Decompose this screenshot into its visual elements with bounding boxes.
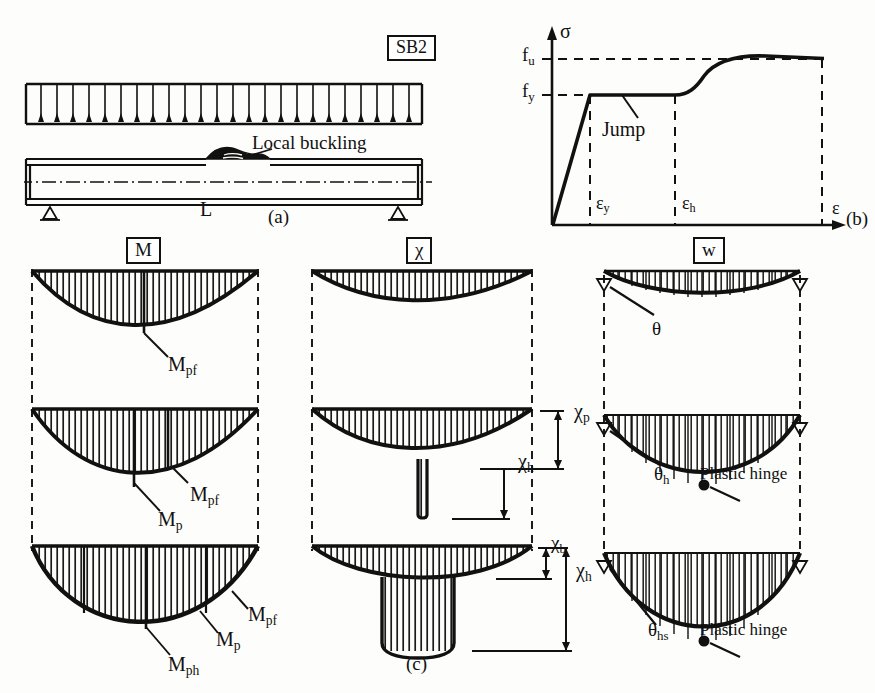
mpf2-main: M [190,483,208,505]
chib-sub: b [559,541,565,556]
chih3-main: χ [576,559,585,581]
mp3-main: M [216,628,234,650]
tick-epsy-sub: y [604,201,610,215]
chip-main: χ [574,400,583,422]
tick-label-fy: fy [522,80,535,105]
tick-label-fu: fu [522,44,535,69]
deflection-label-theta-h: θh [654,463,670,488]
column-header-curvature: χ [406,237,432,264]
mpf1-sub: pf [186,363,197,378]
mp2-main: M [158,508,176,530]
mpf2-sub: pf [208,493,219,508]
column-header-moment: M [126,237,161,264]
moment-label-mp-stage3: Mp [216,628,241,654]
plastic-hinge-label-stage3: Plastic hinge [700,620,787,640]
caption-a: (a) [268,206,289,228]
mph3-main: M [168,653,186,675]
curvature-label-chi-b: χb [551,532,566,557]
tick-fy-sub: y [528,89,534,104]
plastic-hinge-label-stage2: Plastic hinge [700,464,787,484]
mpf3-sub: pf [266,613,277,628]
curvature-label-chi-h-stage2: χh [518,450,534,476]
curvature-diagrams [300,261,600,681]
stress-strain-curve [450,0,875,235]
chih2-sub: h [527,460,534,475]
moment-label-mpf-stage1: Mpf [168,353,197,379]
tick-label-epsilon-y: εy [596,193,610,216]
deflection-label-theta-hs: θhs [648,619,669,644]
span-length-label: L [200,198,212,221]
caption-b: (b) [846,208,868,230]
tick-epsh-sub: h [690,201,696,215]
tick-label-epsilon-h: εh [682,193,696,216]
chih2-main: χ [518,450,527,472]
beam-elevation [24,145,434,223]
axis-label-epsilon: ε [832,198,840,219]
moment-label-mph-stage3: Mph [168,653,199,679]
uniform-load-diagram [24,82,424,127]
thetah-sub: h [663,472,669,487]
tick-epsy-main: ε [596,193,604,213]
theta1-main: θ [652,318,661,339]
moment-label-mpf-stage3: Mpf [248,603,277,629]
mp3-sub: p [234,638,241,653]
mp2-sub: p [176,518,183,533]
thetahs-sub: hs [657,628,668,643]
moment-label-mpf-stage2: Mpf [190,483,219,509]
thetah-main: θ [654,463,663,484]
mpf1-main: M [168,353,186,375]
thetahs-main: θ [648,619,657,640]
mph3-sub: ph [186,663,200,678]
axis-label-sigma: σ [560,20,571,43]
caption-c: (c) [406,653,427,675]
jump-label: Jump [602,118,645,141]
deflection-label-theta-stage1: θ [652,318,661,343]
moment-label-mp-stage2: Mp [158,508,183,534]
panel-c: M χ w [0,235,875,693]
tick-fu-sub: u [528,53,534,68]
tick-epsh-main: ε [682,193,690,213]
mpf3-main: M [248,603,266,625]
specimen-label-sb2: SB2 [387,35,436,61]
panel-a: SB2 [0,0,450,235]
panel-b: σ ε fu fy εy εh Jump (b) [450,0,875,240]
